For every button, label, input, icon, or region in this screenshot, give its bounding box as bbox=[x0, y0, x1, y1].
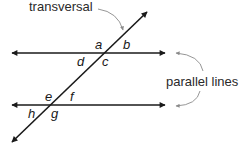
angle-c-label: c bbox=[102, 54, 109, 69]
angle-b-label: b bbox=[123, 37, 130, 52]
transversal-label: transversal bbox=[29, 0, 93, 14]
angle-g-label: g bbox=[51, 106, 59, 121]
angle-a-label: a bbox=[95, 37, 102, 52]
transversal-pointer-arrow bbox=[98, 9, 123, 30]
parallel-pointer-top-arrow bbox=[176, 53, 203, 71]
angle-d-label: d bbox=[77, 54, 85, 69]
transversal-diagram: transversal parallel lines a b c d e f g… bbox=[0, 0, 241, 145]
parallel-pointer-bottom-arrow bbox=[176, 91, 200, 106]
transversal-line bbox=[12, 12, 147, 142]
angle-f-label: f bbox=[70, 89, 75, 104]
angle-h-label: h bbox=[28, 106, 35, 121]
angle-e-label: e bbox=[45, 89, 52, 104]
parallel-lines-label: parallel lines bbox=[166, 74, 239, 89]
